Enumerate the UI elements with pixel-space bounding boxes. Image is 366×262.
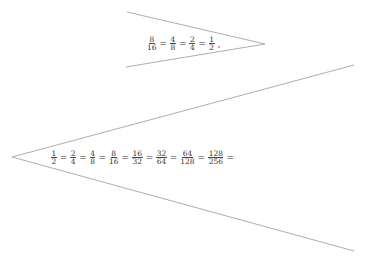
equals-sign: = [198,153,206,163]
equals-sign: = [179,39,187,49]
denominator: 64 [157,158,167,165]
denominator: 2 [209,44,214,51]
fraction: 3264 [156,150,167,165]
equals-sign: = [122,153,130,163]
denominator: 4 [71,158,76,165]
fraction: 128256 [208,150,223,165]
fraction: 1632 [132,150,143,165]
equals-sign: = [79,153,87,163]
equals-sign: = [98,153,106,163]
fraction: 48 [90,150,96,165]
fraction: 24 [70,150,76,165]
denominator: 8 [90,158,95,165]
denominator: 16 [147,44,157,51]
denominator: 128 [180,158,194,165]
fraction: 816 [109,150,119,165]
denominator: 16 [109,158,119,165]
fraction: 64128 [180,150,194,165]
denominator: 8 [171,44,176,51]
denominator: 32 [133,158,143,165]
trailing-mark: = [226,153,234,163]
denominator: 256 [209,158,223,165]
denominator: 2 [52,158,57,165]
equals-sign: = [160,39,168,49]
fraction: 816 [147,36,157,51]
fraction: 12 [209,36,215,51]
fraction: 12 [51,150,57,165]
fraction: 24 [189,36,195,51]
bottom-equation: 12=24=48=816=1632=3264=64128=128256= [50,150,236,165]
equals-sign: = [60,153,68,163]
top-equation: 816=48=24=12, [146,36,222,51]
equals-sign: = [198,39,206,49]
equals-sign: = [170,153,178,163]
denominator: 4 [190,44,195,51]
equals-sign: = [146,153,154,163]
trailing-mark: , [218,39,221,49]
fraction: 48 [170,36,176,51]
